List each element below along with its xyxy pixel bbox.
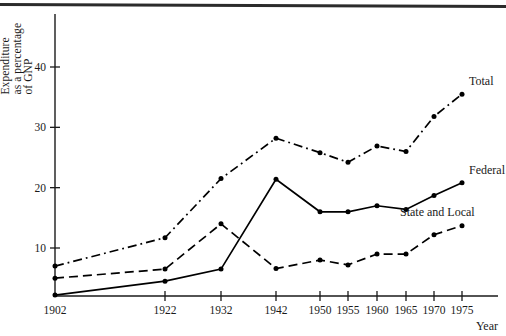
data-point (404, 252, 409, 257)
x-axis-title: Year (476, 319, 498, 333)
y-tick-label: 20 (35, 182, 47, 194)
data-point (432, 232, 437, 237)
data-point (432, 114, 437, 119)
data-point (460, 223, 465, 228)
data-point (219, 176, 224, 181)
y-tick-label: 30 (35, 121, 47, 133)
data-point (460, 180, 465, 185)
x-tick-label: 1965 (395, 304, 418, 316)
data-point (432, 193, 437, 198)
data-point (375, 252, 380, 257)
data-point (163, 235, 168, 240)
data-point (53, 264, 58, 269)
chart-figure: Expenditure as a percentage of GNP 10203… (0, 0, 506, 336)
series-label-group: TotalFederalState and Local (400, 74, 506, 219)
x-tick-label: 1960 (366, 304, 389, 316)
data-point (318, 258, 323, 263)
data-point (219, 221, 224, 226)
data-point (375, 203, 380, 208)
x-tick-label: 1955 (337, 304, 360, 316)
x-tick-label: 1932 (210, 304, 233, 316)
series-label-federal: Federal (469, 163, 506, 177)
x-tick-group: 1902192219321942195019551960196519701975 (44, 291, 474, 316)
x-tick-label: 1975 (451, 304, 474, 316)
data-point (318, 209, 323, 214)
data-point (346, 209, 351, 214)
data-point (346, 160, 351, 165)
data-point (274, 266, 279, 271)
data-point (346, 262, 351, 267)
y-tick-group: 10203040 (35, 61, 61, 254)
series-label-total: Total (469, 74, 494, 88)
data-point (375, 144, 380, 149)
series-group (53, 92, 465, 298)
data-point (163, 279, 168, 284)
series-line-federal (55, 179, 462, 295)
y-tick-label: 10 (35, 242, 47, 254)
x-tick-label: 1942 (265, 304, 288, 316)
data-point (318, 150, 323, 155)
data-point (53, 293, 58, 298)
data-point (219, 267, 224, 272)
data-point (460, 92, 465, 97)
series-line-total (55, 94, 462, 266)
x-tick-label: 1922 (154, 304, 177, 316)
chart-plot-area: 10203040 1902192219321942195019551960196… (0, 0, 506, 336)
x-tick-label: 1970 (423, 304, 446, 316)
data-point (53, 276, 58, 281)
data-point (163, 267, 168, 272)
series-label-state-and-local: State and Local (400, 205, 475, 219)
x-tick-label: 1950 (309, 304, 332, 316)
x-tick-label: 1902 (44, 304, 67, 316)
y-tick-label: 40 (35, 61, 47, 73)
data-point (274, 136, 279, 141)
data-point (274, 177, 279, 182)
data-point (404, 149, 409, 154)
